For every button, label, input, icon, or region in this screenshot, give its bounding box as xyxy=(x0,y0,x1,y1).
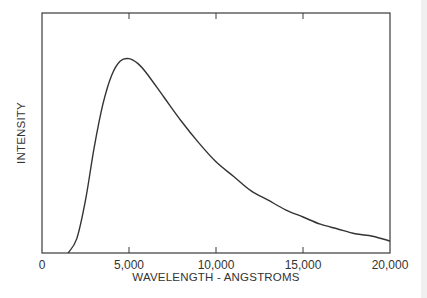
plot-frame xyxy=(42,13,390,253)
x-tick-label: 5,000 xyxy=(114,258,144,272)
x-tick-labels: 05,00010,00015,00020,000 xyxy=(39,258,409,272)
x-tick-label: 10,000 xyxy=(198,258,235,272)
spectrum-curve xyxy=(68,58,390,253)
x-axis-title: WAVELENGTH - ANGSTROMS xyxy=(132,271,299,283)
intensity-chart: 05,00010,00015,00020,000 WAVELENGTH - AN… xyxy=(0,0,427,298)
x-tick-label: 0 xyxy=(39,258,46,272)
y-axis-title: INTENSITY xyxy=(15,102,27,164)
x-tick-label: 20,000 xyxy=(372,258,409,272)
x-ticks xyxy=(129,13,303,253)
x-tick-label: 15,000 xyxy=(285,258,322,272)
